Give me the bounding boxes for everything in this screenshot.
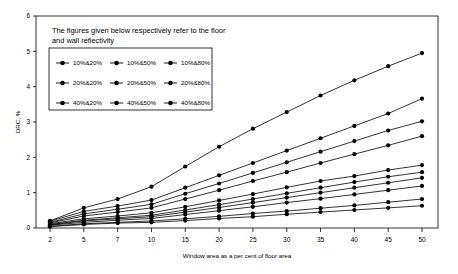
legend-label: 40%&50%	[127, 99, 156, 106]
data-point	[386, 128, 390, 132]
data-point	[420, 119, 424, 123]
legend-marker-icon	[60, 101, 65, 106]
legend-label: 10%&20%	[73, 59, 102, 66]
y-tick-label: 2	[26, 154, 30, 161]
legend-note-line-2: and wall reflectivity	[52, 36, 114, 45]
x-tick-label: 2	[48, 236, 52, 243]
data-point	[285, 110, 289, 114]
data-point	[48, 219, 52, 223]
data-point	[149, 202, 153, 206]
data-point	[251, 211, 255, 215]
data-point	[149, 198, 153, 202]
data-point	[420, 134, 424, 138]
data-point	[116, 214, 120, 218]
data-point	[285, 209, 289, 213]
legend-marker-icon	[114, 61, 119, 66]
data-point	[420, 170, 424, 174]
data-point	[386, 168, 390, 172]
x-tick-label: 10	[148, 236, 156, 243]
data-point	[217, 173, 221, 177]
legend-label: 20%&50%	[127, 79, 156, 86]
y-axis-title: DRC, %	[14, 110, 21, 133]
data-point	[285, 149, 289, 153]
x-tick-label: 45	[385, 236, 393, 243]
data-point	[420, 163, 424, 167]
data-point	[318, 136, 322, 140]
data-point	[251, 127, 255, 131]
data-point	[183, 164, 187, 168]
data-point	[183, 186, 187, 190]
data-point	[217, 198, 221, 202]
data-point	[352, 78, 356, 82]
data-point	[285, 170, 289, 174]
data-point	[318, 210, 322, 214]
legend-label: 20%&80%	[181, 79, 210, 86]
legend-label: 40%&20%	[73, 99, 102, 106]
data-point	[420, 176, 424, 180]
y-tick-label: 6	[26, 12, 30, 19]
data-point	[183, 197, 187, 201]
data-point	[82, 206, 86, 210]
x-tick-label: 35	[317, 236, 325, 243]
x-tick-label: 20	[215, 236, 223, 243]
data-point	[251, 192, 255, 196]
y-tick-label: 5	[26, 48, 30, 55]
x-tick-label: 25	[249, 236, 257, 243]
chart-svg: 0123456 257101520253035404550 The figure…	[0, 0, 458, 274]
legend-marker-icon	[114, 81, 119, 86]
data-point	[352, 203, 356, 207]
data-point	[217, 145, 221, 149]
y-tick-label: 3	[26, 118, 30, 125]
legend-label: 40%&80%	[181, 99, 210, 106]
data-point	[386, 200, 390, 204]
data-point	[352, 208, 356, 212]
data-point	[420, 184, 424, 188]
data-point	[352, 124, 356, 128]
data-point	[285, 160, 289, 164]
data-point	[352, 174, 356, 178]
data-point	[386, 143, 390, 147]
legend-marker-icon	[60, 81, 65, 86]
data-point	[352, 139, 356, 143]
data-point	[420, 51, 424, 55]
y-tick-label: 0	[26, 224, 30, 231]
data-point	[386, 188, 390, 192]
x-tick-label: 15	[182, 236, 190, 243]
data-point	[318, 93, 322, 97]
data-point	[420, 197, 424, 201]
y-tick-label: 4	[26, 83, 30, 90]
data-point	[318, 197, 322, 201]
legend-label: 20%&20%	[73, 79, 102, 86]
data-point	[116, 197, 120, 201]
data-point	[352, 192, 356, 196]
data-point	[183, 192, 187, 196]
data-point	[285, 196, 289, 200]
data-point	[285, 191, 289, 195]
legend-marker-icon	[114, 101, 119, 106]
x-tick-label: 50	[418, 236, 426, 243]
data-point	[318, 191, 322, 195]
data-point	[386, 181, 390, 185]
y-tick-label: 1	[26, 189, 30, 196]
data-point	[386, 175, 390, 179]
data-point	[217, 181, 221, 185]
data-point	[285, 200, 289, 204]
data-point	[352, 152, 356, 156]
data-point	[149, 185, 153, 189]
data-point	[352, 180, 356, 184]
legend-marker-icon	[168, 81, 173, 86]
data-point	[352, 186, 356, 190]
data-point	[420, 204, 424, 208]
x-tick-label: 7	[116, 236, 120, 243]
data-point	[318, 161, 322, 165]
data-point	[251, 179, 255, 183]
legend-marker-icon	[168, 101, 173, 106]
x-axis-title: Window area as a per cent of floor area	[183, 252, 292, 259]
data-point	[183, 217, 187, 221]
data-point	[318, 179, 322, 183]
data-point	[318, 206, 322, 210]
data-point	[217, 214, 221, 218]
x-tick-label: 5	[82, 236, 86, 243]
data-point	[217, 203, 221, 207]
chart-container: 0123456 257101520253035404550 The figure…	[0, 0, 458, 274]
